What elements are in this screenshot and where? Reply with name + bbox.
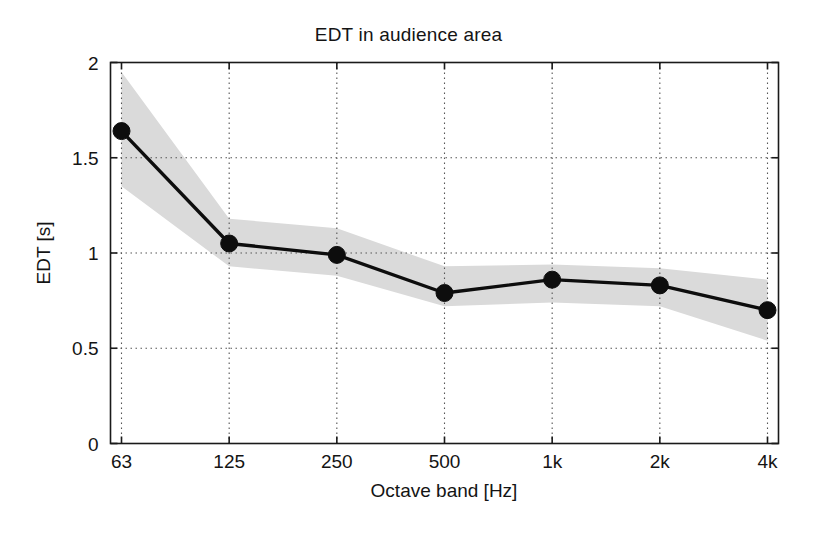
data-point-marker [544, 271, 561, 288]
y-tick-label: 1 [88, 243, 99, 264]
data-point-marker [651, 277, 668, 294]
chart-page: EDT in audience area 00.511.52 631252505… [0, 0, 817, 533]
data-point-marker [113, 123, 130, 140]
y-tick-label: 1.5 [72, 148, 98, 169]
x-tick-label: 250 [321, 451, 353, 472]
x-tick-label: 63 [111, 451, 132, 472]
data-point-marker [328, 246, 345, 263]
chart-plot-area: 00.511.52 631252505001k2k4k Octave band … [0, 0, 817, 533]
data-point-marker [221, 235, 238, 252]
x-tick-label: 500 [429, 451, 461, 472]
edt-chart-figure: EDT in audience area 00.511.52 631252505… [0, 0, 817, 533]
x-axis-title: Octave band [Hz] [371, 480, 518, 501]
y-axis-tick-labels: 00.511.52 [72, 53, 98, 455]
x-tick-label: 1k [542, 451, 563, 472]
x-axis-tick-labels: 631252505001k2k4k [111, 451, 778, 472]
x-tick-label: 4k [757, 451, 778, 472]
x-tick-label: 2k [650, 451, 671, 472]
data-point-marker [759, 302, 776, 319]
y-axis-title: EDT [s] [33, 222, 54, 285]
y-tick-label: 0 [88, 434, 99, 455]
x-tick-label: 125 [213, 451, 245, 472]
y-tick-label: 2 [88, 53, 99, 74]
y-tick-label: 0.5 [72, 338, 98, 359]
data-point-marker [436, 285, 453, 302]
